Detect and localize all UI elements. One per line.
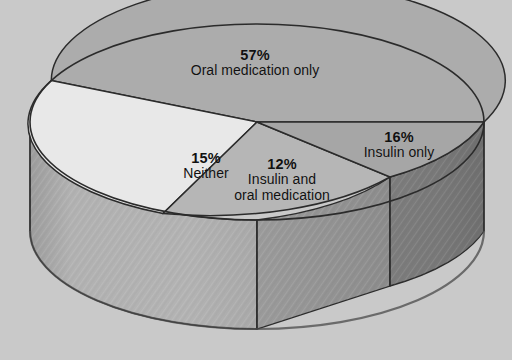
pie-chart-figure: 57% Oral medication only 16% Insulin onl… [0, 0, 512, 360]
pie-chart-graphic [0, 0, 512, 360]
